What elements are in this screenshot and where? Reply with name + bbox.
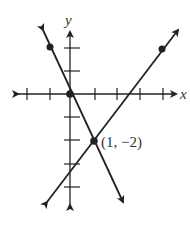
coordinate-graph: x y (1, −2) [0, 0, 190, 244]
intersection-label: (1, −2) [101, 134, 142, 151]
point-origin [66, 90, 74, 98]
y-axis: y [63, 12, 80, 205]
point-neg1-2 [47, 44, 54, 51]
line-increasing [47, 30, 178, 202]
x-axis: x [18, 86, 187, 102]
y-axis-ticks [64, 48, 80, 187]
y-axis-label: y [63, 12, 72, 28]
point-4-1 [159, 46, 166, 53]
line-decreasing [43, 30, 123, 202]
point-intersection [90, 137, 98, 145]
x-axis-label: x [179, 86, 187, 102]
